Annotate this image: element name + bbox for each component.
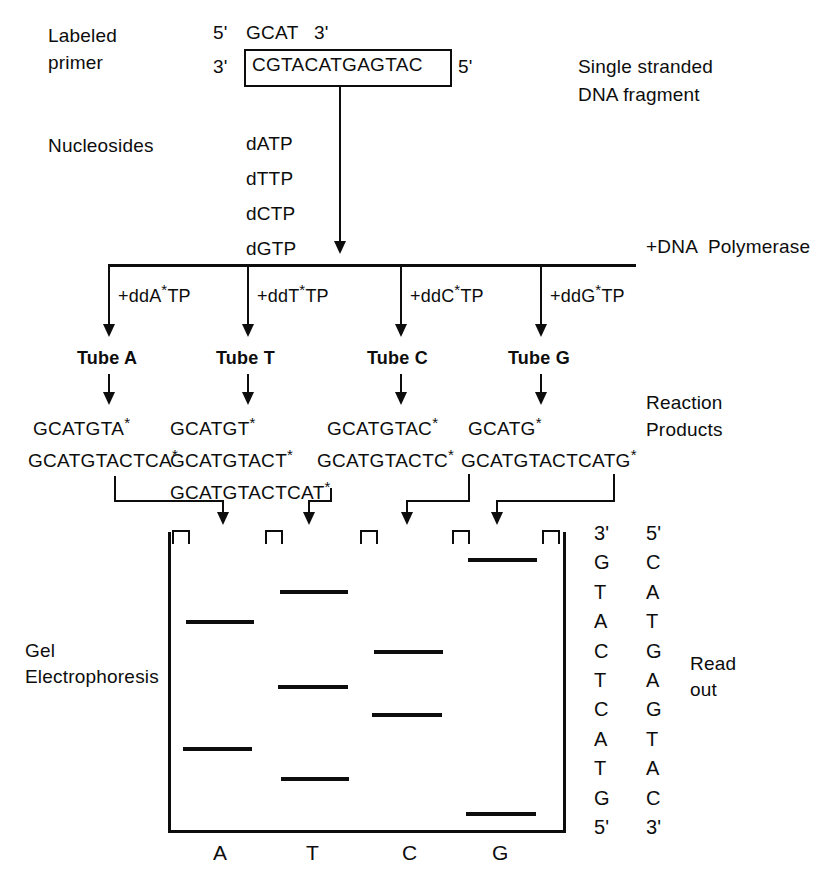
- product-t-2: GCATGTACT*: [170, 450, 293, 471]
- tube-label-t: Tube T: [216, 348, 275, 368]
- primer-sequence: GCAT: [246, 22, 299, 43]
- gel-well-divider-2: [360, 530, 378, 544]
- loading-arrowhead-c: [401, 512, 413, 525]
- readout-right-item-9: C: [646, 787, 661, 809]
- branch-line-g: [540, 264, 542, 328]
- product-g-1-star: *: [536, 414, 542, 431]
- product-a-2-seq: GCATGTACTCA: [28, 450, 172, 471]
- readout-right-item-0: 5': [646, 522, 661, 544]
- gel-label-line2: Electrophoresis: [25, 666, 159, 687]
- loading-connector-c-horizontal: [406, 500, 470, 502]
- product-a-1: GCATGTA*: [33, 418, 130, 439]
- product-c-1: GCATGTAC*: [327, 418, 438, 439]
- loading-arrowhead-t: [303, 512, 315, 525]
- readout-right-item-3: T: [646, 610, 658, 632]
- product-t-2-star: *: [287, 446, 293, 463]
- product-c-2-seq: GCATGTACTC: [317, 450, 448, 471]
- template-sequence: CGTACATGAGTAC: [252, 54, 423, 75]
- readout-left-item-3: A: [594, 610, 608, 632]
- tube-label-a: Tube A: [77, 348, 137, 368]
- readout-left-item-9: G: [594, 787, 610, 809]
- branch-arrowhead-c: [395, 324, 407, 337]
- terminator-a-prefix: +ddA: [118, 286, 161, 306]
- terminator-label-c: +ddC*TP: [410, 286, 484, 306]
- single-stranded-label-line2: DNA fragment: [578, 84, 700, 105]
- readout-left-item-6: C: [594, 698, 609, 720]
- tube-label-c: Tube C: [367, 348, 428, 368]
- branch-arrowhead-g: [535, 324, 547, 337]
- tube-to-products-arrowhead-t: [242, 392, 254, 405]
- terminator-t-prefix: +ddT: [257, 286, 299, 306]
- terminator-label-g: +ddG*TP: [550, 286, 625, 306]
- figure-canvas: Labeled primer 5' GCAT 3' 3' CGTACATGAGT…: [0, 0, 836, 882]
- gel-label-line1: Gel: [25, 640, 55, 661]
- product-t-1-seq: GCATGT: [170, 418, 250, 439]
- terminator-c-prefix: +ddC: [410, 286, 454, 306]
- readout-right-item-1: C: [646, 551, 661, 573]
- product-c-2-star: *: [448, 446, 454, 463]
- readout-left-item-10: 5': [594, 816, 609, 838]
- readout-right-item-8: A: [646, 757, 660, 779]
- gel-band-t-3: [281, 777, 349, 781]
- product-t-2-seq: GCATGTACT: [170, 450, 287, 471]
- tube-label-g: Tube G: [508, 348, 570, 368]
- branch-arrowhead-a: [103, 324, 115, 337]
- product-a-1-seq: GCATGTA: [33, 418, 124, 439]
- gel-band-t-2: [278, 685, 348, 689]
- tube-to-products-arrowhead-a: [103, 392, 115, 405]
- reaction-split-bar: [108, 264, 636, 267]
- gel-band-g-2: [466, 812, 536, 816]
- gel-well-divider-3: [452, 530, 470, 544]
- product-g-1-seq: GCATG: [468, 418, 536, 439]
- loading-arrowhead-g: [491, 512, 503, 525]
- template-to-reactions-arrowhead: [334, 241, 346, 254]
- terminator-a-suffix: TP: [167, 286, 190, 306]
- product-t-1-star: *: [250, 414, 256, 431]
- product-g-2-star: *: [631, 446, 637, 463]
- gel-well-divider-1: [265, 530, 283, 544]
- product-a-2: GCATGTACTCA*: [28, 450, 178, 471]
- gel-well-right-edge: [542, 530, 560, 544]
- readout-left-item-2: T: [594, 581, 606, 603]
- loading-connector-a-horizontal: [114, 500, 224, 502]
- terminator-t-suffix: TP: [305, 286, 328, 306]
- readout-left-item-0: 3': [594, 522, 609, 544]
- product-t-1: GCATGT*: [170, 418, 256, 439]
- template-5prime-label: 5': [458, 56, 473, 77]
- product-c-2: GCATGTACTC*: [317, 450, 454, 471]
- template-3prime-label: 3': [213, 56, 228, 77]
- labeled-primer-label-line1: Labeled: [48, 25, 117, 46]
- nucleoside-dttp: dTTP: [246, 168, 293, 189]
- readout-left-item-8: T: [594, 757, 606, 779]
- gel-band-g-1: [468, 558, 537, 562]
- readout-right-item-6: G: [646, 698, 662, 720]
- nucleosides-label: Nucleosides: [48, 135, 154, 156]
- branch-line-a: [108, 264, 110, 328]
- readout-label-line1: Read: [690, 653, 736, 674]
- readout-left-item-1: G: [594, 551, 610, 573]
- readout-left-item-7: A: [594, 728, 608, 750]
- loading-connector-t-horizontal: [308, 500, 332, 502]
- terminator-c-suffix: TP: [460, 286, 483, 306]
- tube-to-products-arrowhead-c: [395, 392, 407, 405]
- labeled-primer-label-line2: primer: [48, 52, 103, 73]
- readout-label-line2: out: [690, 679, 717, 700]
- nucleoside-dctp: dCTP: [246, 203, 295, 224]
- gel-band-c-2: [372, 713, 442, 717]
- product-g-2: GCATGTACTCATG*: [461, 450, 637, 471]
- gel-plate: [168, 532, 566, 833]
- branch-arrowhead-t: [242, 324, 254, 337]
- branch-line-t: [247, 264, 249, 328]
- product-a-1-star: *: [124, 414, 130, 431]
- readout-left-item-4: C: [594, 640, 609, 662]
- reaction-products-label-line1: Reaction: [646, 392, 723, 413]
- readout-right-item-4: G: [646, 640, 662, 662]
- product-c-1-seq: GCATGTAC: [327, 418, 432, 439]
- gel-band-a-1: [186, 620, 254, 624]
- loading-connector-a-vertical: [114, 476, 116, 502]
- reaction-products-label-line2: Products: [646, 419, 723, 440]
- readout-left-item-5: T: [594, 669, 606, 691]
- lane-label-a: A: [213, 841, 227, 865]
- single-stranded-label-line1: Single stranded: [578, 56, 713, 77]
- terminator-label-t: +ddT*TP: [257, 286, 329, 306]
